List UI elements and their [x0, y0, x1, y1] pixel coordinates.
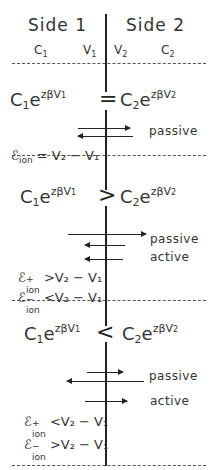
c2-label: C2 [161, 43, 174, 59]
active-flux-arrow-right [87, 372, 123, 373]
section1-right-term: C2ezβV2 [120, 88, 176, 112]
section2-left-term: C1ezβV1 [20, 185, 76, 209]
separator-dashed [12, 465, 206, 466]
active-label: active [150, 394, 189, 408]
section2-right-term: C2ezβV2 [120, 185, 176, 209]
section1-condition: ℰion = V₂ − V₁ [11, 148, 99, 165]
section3-relation: < [96, 319, 114, 344]
active-label: active [150, 250, 189, 264]
section3-condition-positive: ℰ+ion<V₂ − V₁ [24, 414, 108, 429]
passive-label: passive [149, 369, 198, 383]
passive-flux-arrow-left [67, 381, 144, 382]
section3-condition-negative: ℰ−ion>V₂ − V₁ [24, 437, 108, 452]
side-2-heading: Side 2 [126, 15, 185, 35]
section2-relation: > [98, 182, 116, 207]
c1-label: C1 [34, 43, 47, 59]
section3-left-term: C1ezβV1 [24, 322, 80, 346]
flux-arrow-right [78, 128, 130, 129]
membrane-line [105, 206, 107, 326]
active-flux-arrow-left [85, 259, 123, 260]
passive-label: passive [150, 232, 199, 246]
section2-condition-negative: ℰ−ion<V₂ − V₁ [18, 290, 102, 305]
passive-label: passive [149, 124, 198, 138]
v1-label: V1 [83, 43, 96, 59]
v2-label: V2 [114, 43, 127, 59]
membrane-line [105, 110, 107, 190]
section2-condition-positive: ℰ+ion>V₂ − V₁ [18, 270, 102, 285]
section1-left-term: C1ezβV1 [10, 88, 66, 112]
section3-right-term: C2ezβV2 [122, 322, 178, 346]
separator-dashed [12, 63, 206, 64]
active-flux-arrow-right [85, 401, 127, 402]
active-flux-arrow-left [85, 245, 125, 246]
membrane-line [105, 14, 107, 92]
section1-relation: = [99, 86, 117, 111]
flux-arrow-left [78, 136, 133, 137]
side-1-heading: Side 1 [28, 15, 87, 35]
passive-flux-arrow-right [68, 234, 146, 235]
